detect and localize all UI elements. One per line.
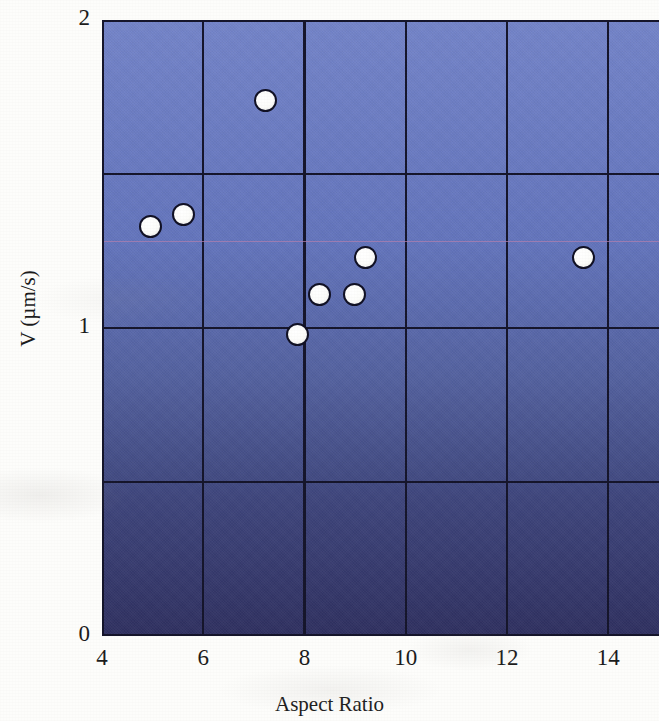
x-tick-label-6: 6 xyxy=(173,645,233,671)
data-point xyxy=(254,89,277,112)
data-point xyxy=(308,283,331,306)
plot-area xyxy=(102,20,659,636)
x-tick-label-10: 10 xyxy=(376,645,436,671)
x-axis-title: Aspect Ratio xyxy=(0,692,659,717)
scatter-plot-figure: 468101214 012 Aspect Ratio V (µm/s) xyxy=(0,0,659,721)
data-point xyxy=(354,246,377,269)
x-tick-label-12: 12 xyxy=(477,645,537,671)
y-axis-title: V (µm/s) xyxy=(16,229,41,389)
y-tick-label-1: 1 xyxy=(46,313,90,339)
y-tick-label-0: 0 xyxy=(46,621,90,647)
data-point xyxy=(172,203,195,226)
x-tick-label-14: 14 xyxy=(578,645,638,671)
x-tick-label-4: 4 xyxy=(72,645,132,671)
x-tick-label-8: 8 xyxy=(275,645,335,671)
data-point xyxy=(286,323,309,346)
data-point xyxy=(572,246,595,269)
data-point xyxy=(343,283,366,306)
data-point xyxy=(139,215,162,238)
y-tick-label-2: 2 xyxy=(46,5,90,31)
plot-frame-border xyxy=(102,20,659,636)
